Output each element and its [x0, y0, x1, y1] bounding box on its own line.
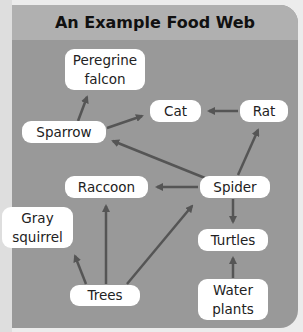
node-sparrow: Sparrow: [22, 121, 106, 143]
node-trees: Trees: [70, 285, 140, 306]
node-label-line1: Water: [213, 281, 253, 300]
node-turtles: Turtles: [198, 229, 268, 251]
node-label-line1: Peregrine: [73, 51, 137, 70]
node-label: Turtles: [211, 231, 256, 250]
arrow-sparrow-to-falcon: [78, 97, 87, 121]
node-label: Cat: [164, 102, 187, 121]
node-raccoon: Raccoon: [65, 176, 148, 198]
node-label: Trees: [87, 286, 122, 305]
node-rat: Rat: [240, 100, 288, 122]
arrow-trees-to-spider: [127, 206, 192, 284]
node-label-line2: falcon: [84, 70, 125, 89]
node-label: Raccoon: [78, 178, 135, 197]
node-gray-squirrel: Gray squirrel: [2, 207, 73, 248]
arrow-trees-to-squirrel: [75, 256, 86, 284]
node-label-line2: plants: [212, 300, 253, 319]
arrow-spider-to-sparrow: [113, 141, 205, 178]
node-cat: Cat: [150, 100, 201, 122]
node-peregrine-falcon: Peregrine falcon: [65, 49, 145, 90]
node-label: Sparrow: [36, 123, 91, 142]
node-label-line1: Gray: [21, 209, 53, 228]
node-label: Spider: [213, 178, 256, 197]
node-water-plants: Water plants: [198, 279, 268, 320]
arrow-sparrow-to-cat: [107, 116, 142, 128]
arrow-spider-to-rat: [238, 130, 258, 175]
node-label-line2: squirrel: [12, 228, 63, 247]
node-spider: Spider: [200, 176, 270, 198]
node-label: Rat: [253, 102, 276, 121]
